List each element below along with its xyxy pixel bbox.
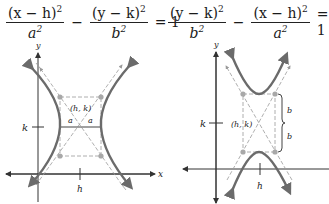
corner-dot [240,149,245,154]
b-brace [278,94,285,152]
b-label: b [287,132,292,141]
asymptote [36,65,122,185]
center-label: (h, k) [70,104,91,113]
asymptote-tip [122,185,126,190]
corner-dot [98,94,103,99]
h-label: h [257,181,263,191]
center-label: (h, k) [231,120,252,129]
corner-dot [98,153,103,158]
corner-dot [240,91,245,96]
right-branch [101,65,130,186]
corner-dot [57,94,62,99]
a-label: a [88,116,93,125]
h-label: h [77,184,83,194]
left-branch [31,67,60,184]
right-graph: y k h b b (h, k) [183,40,329,203]
corner-dot [57,153,62,158]
corner-dot [272,149,277,154]
k-label: k [22,122,28,133]
left-graph: y x k h a a (h, k) [6,41,163,202]
hyperbola-diagrams: y x k h a a (h, k) y [0,0,329,204]
left-y-axis-label: y [35,41,41,50]
a-label: a [68,116,73,125]
corner-dot [272,91,277,96]
left-x-axis-label: x [158,169,163,179]
right-y-axis-label: y [213,40,219,49]
k-label: k [200,118,206,129]
b-label: b [287,106,292,115]
